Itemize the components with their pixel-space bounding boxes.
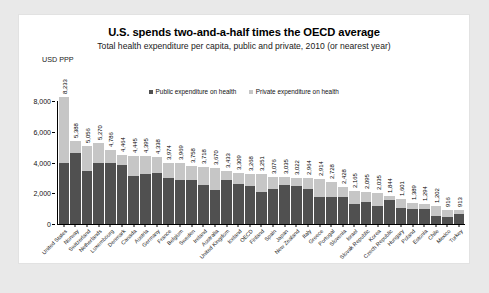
bar-column[interactable]: 5,388 <box>70 101 81 224</box>
x-axis-category: Chile <box>431 227 442 265</box>
bar-value-label: 2,728 <box>330 164 336 179</box>
stacked-bar: 3,076 <box>268 177 279 224</box>
bar-value-label: 1,389 <box>411 185 417 200</box>
bar-segment-private <box>303 178 314 189</box>
bar-column[interactable]: 4,464 <box>117 101 128 224</box>
bar-column[interactable]: 2,035 <box>372 101 383 224</box>
bar-column[interactable]: 1,844 <box>384 101 395 224</box>
x-axis-category: Mexico <box>442 227 453 265</box>
stacked-bar: 3,758 <box>186 166 197 224</box>
bar-segment-public <box>210 190 221 224</box>
bar-value-label: 1,294 <box>423 186 429 201</box>
bar-column[interactable]: 5,056 <box>82 101 93 224</box>
bar-column[interactable]: 916 <box>442 101 453 224</box>
bar-column[interactable]: 913 <box>454 101 465 224</box>
bar-value-label: 5,388 <box>74 123 80 138</box>
bar-column[interactable]: 1,601 <box>396 101 407 224</box>
bar-segment-public <box>268 189 279 224</box>
stacked-bar: 5,270 <box>93 143 104 224</box>
bar-column[interactable]: 3,969 <box>175 101 186 224</box>
stacked-bar: 3,022 <box>291 178 302 224</box>
bar-column[interactable]: 3,309 <box>233 101 244 224</box>
bar-value-label: 1,844 <box>388 178 394 193</box>
bar-segment-private <box>314 179 325 197</box>
bar-segment-public <box>152 173 163 224</box>
bar-segment-private <box>105 150 116 162</box>
bar-segment-public <box>372 206 383 224</box>
bar-column[interactable]: 4,338 <box>152 101 163 224</box>
bar-column[interactable]: 3,251 <box>256 101 267 224</box>
bar-column[interactable]: 2,428 <box>338 101 349 224</box>
bar-column[interactable]: 2,964 <box>303 101 314 224</box>
bar-column[interactable]: 3,670 <box>210 101 221 224</box>
bar-segment-private <box>396 199 407 207</box>
bar-column[interactable]: 3,022 <box>291 101 302 224</box>
bar-segment-public <box>384 200 395 224</box>
bar-segment-private <box>70 141 81 153</box>
bar-segment-private <box>198 167 209 185</box>
bar-segment-private <box>442 210 453 217</box>
bar-segment-private <box>349 191 360 204</box>
bar-column[interactable]: 1,389 <box>407 101 418 224</box>
bar-column[interactable]: 4,395 <box>140 101 151 224</box>
stacked-bar: 1,389 <box>407 203 418 224</box>
bar-column[interactable]: 4,445 <box>128 101 139 224</box>
y-axis-tick-mark <box>52 163 55 164</box>
stacked-bar: 3,035 <box>279 177 290 224</box>
x-axis-category: Sweden <box>186 227 197 265</box>
bar-value-label: 3,433 <box>225 153 231 168</box>
stacked-bar: 3,251 <box>256 174 267 224</box>
bar-column[interactable]: 3,758 <box>186 101 197 224</box>
bar-column[interactable]: 4,786 <box>105 101 116 224</box>
bar-value-label: 3,022 <box>295 160 301 175</box>
bar-value-label: 4,786 <box>109 133 115 148</box>
stacked-bar: 1,202 <box>431 206 442 224</box>
y-axis-tick-label: 2,000 <box>33 190 51 197</box>
bar-column[interactable]: 3,268 <box>245 101 256 224</box>
bar-column[interactable]: 8,233 <box>59 101 70 224</box>
bar-column[interactable]: 3,035 <box>279 101 290 224</box>
stacked-bar: 3,309 <box>233 173 244 224</box>
bar-column[interactable]: 1,202 <box>431 101 442 224</box>
bar-column[interactable]: 1,294 <box>419 101 430 224</box>
bar-column[interactable]: 2,914 <box>314 101 325 224</box>
bar-segment-private <box>140 156 151 173</box>
y-axis-tick-mark <box>52 101 55 102</box>
x-axis-category: Iceland <box>233 227 244 265</box>
bar-column[interactable]: 2,728 <box>326 101 337 224</box>
bar-segment-public <box>279 185 290 224</box>
bar-column[interactable]: 3,718 <box>198 101 209 224</box>
x-axis-category: Germany <box>152 227 163 265</box>
x-axis-category: Estonia <box>419 227 430 265</box>
bar-segment-private <box>326 182 337 197</box>
stacked-bar: 2,964 <box>303 178 314 224</box>
bar-column[interactable]: 5,270 <box>93 101 104 224</box>
stacked-bar: 2,165 <box>349 191 360 224</box>
legend-swatch-private <box>249 90 253 94</box>
bar-value-label: 4,395 <box>144 139 150 154</box>
bar-value-label: 3,076 <box>272 159 278 174</box>
bar-segment-private <box>93 143 104 163</box>
x-axis-category: France <box>163 227 174 265</box>
bar-segment-public <box>454 214 465 224</box>
bar-segment-public <box>128 176 139 224</box>
bar-column[interactable]: 3,076 <box>268 101 279 224</box>
bar-segment-public <box>140 174 151 224</box>
bar-segment-public <box>186 180 197 224</box>
x-axis-category: United Kingdom <box>221 227 232 265</box>
bar-segment-private <box>372 193 383 206</box>
bar-value-label: 3,969 <box>179 145 185 160</box>
bar-segment-private <box>233 173 244 184</box>
bar-column[interactable]: 2,165 <box>349 101 360 224</box>
stacked-bar: 2,035 <box>372 193 383 224</box>
bar-segment-private <box>186 166 197 179</box>
bar-column[interactable]: 3,433 <box>221 101 232 224</box>
bar-segment-public <box>396 208 407 224</box>
bar-column[interactable]: 3,974 <box>163 101 174 224</box>
stacked-bar: 4,445 <box>128 156 139 224</box>
legend-label-public: Public expenditure on health <box>156 88 237 95</box>
x-axis-category: OECD <box>245 227 256 265</box>
y-axis-tick-label: 6,000 <box>33 128 51 135</box>
bar-column[interactable]: 2,095 <box>361 101 372 224</box>
bar-value-label: 3,268 <box>248 156 254 171</box>
